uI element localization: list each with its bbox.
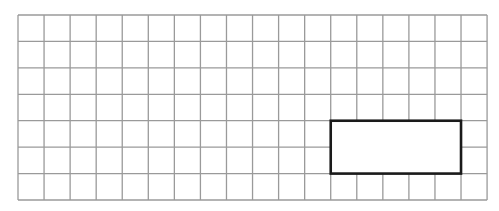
grid-diagram — [0, 0, 499, 211]
highlighted-rectangle — [331, 121, 461, 174]
